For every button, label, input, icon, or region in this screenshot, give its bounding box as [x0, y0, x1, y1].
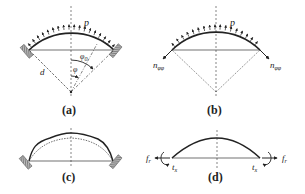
phi0-line: [71, 50, 114, 92]
pressure-label: p: [83, 17, 89, 28]
panel-d: fr fr tx tx (d): [146, 130, 288, 184]
shell-arc: [29, 33, 114, 50]
right-clamped-support: [109, 44, 122, 58]
pressure-arrows: [28, 25, 114, 49]
panel-b: p nφφ nφφ (b): [153, 6, 282, 117]
moment-label-right: tx: [252, 162, 258, 173]
shell-arc: [172, 138, 260, 158]
edge-force-label-left: nφφ: [153, 60, 165, 71]
radius-line-right: [216, 50, 260, 92]
radius-line-left: [172, 50, 216, 92]
pressure-arrows: [172, 25, 258, 47]
moment-label-left: tx: [172, 162, 178, 173]
edge-force-arrow-right: [260, 50, 269, 59]
panel-a-caption: (a): [62, 103, 76, 117]
pressure-label: p: [229, 17, 235, 28]
center-point: [70, 91, 72, 93]
radial-force-label-right: fr: [282, 153, 288, 164]
radial-force-label-left: fr: [146, 153, 152, 164]
panel-c-caption: (c): [62, 170, 75, 184]
phi-label: φ: [73, 65, 78, 74]
radius-line: [29, 50, 71, 92]
edge-force-label-right: nφφ: [270, 60, 282, 71]
panel-c: (c): [19, 128, 122, 184]
phi-angle-arc: [71, 76, 78, 78]
panel-a: p d φ0 φ (a): [20, 6, 122, 117]
radius-label: d: [40, 67, 45, 77]
panel-b-caption: (b): [207, 103, 222, 117]
shell-diagram: p d φ0 φ (a): [0, 0, 305, 194]
phi0-label: φ0: [80, 52, 87, 62]
edge-force-arrow-left: [163, 50, 172, 59]
panel-d-caption: (d): [208, 170, 223, 184]
